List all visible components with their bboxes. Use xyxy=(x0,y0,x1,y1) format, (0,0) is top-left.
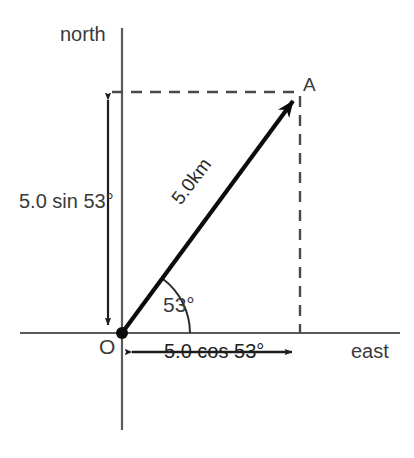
axis-label-north: north xyxy=(60,24,106,44)
axis-label-east: east xyxy=(351,341,389,361)
north-component-label: 5.0 sin 53° xyxy=(19,191,114,211)
displacement-vector-oa xyxy=(122,101,293,333)
diagram-canvas xyxy=(0,0,414,458)
point-a-label: A xyxy=(303,75,316,94)
angle-label: 53° xyxy=(163,294,195,315)
origin-point-marker xyxy=(116,327,128,339)
east-component-label: 5.0 cos 53° xyxy=(164,341,264,361)
vector-diagram: north east O A 53° 5.0 sin 53° 5.0 cos 5… xyxy=(0,0,414,458)
origin-label: O xyxy=(99,336,115,357)
